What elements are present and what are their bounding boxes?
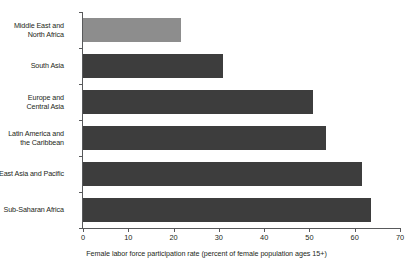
- x-axis-tick-label: 70: [385, 233, 413, 242]
- x-axis-tick-label: 30: [204, 233, 234, 242]
- bar: [83, 18, 181, 42]
- x-axis-tick: [83, 228, 84, 232]
- x-axis-tick: [264, 228, 265, 232]
- category-label: Europe and Central Asia: [0, 93, 64, 112]
- bar-row: Sub-Saharan Africa: [83, 192, 400, 228]
- y-axis-tick: [79, 12, 83, 13]
- plot-area: Middle East and North AfricaSouth AsiaEu…: [83, 12, 400, 228]
- x-axis-tick: [219, 228, 220, 232]
- x-axis-tick-label: 60: [340, 233, 370, 242]
- bar-row: Europe and Central Asia: [83, 84, 400, 120]
- bar: [83, 54, 223, 78]
- category-label: Latin America and the Caribbean: [0, 129, 64, 148]
- y-axis-tick: [79, 84, 83, 85]
- bar-row: Latin America and the Caribbean: [83, 120, 400, 156]
- y-axis-tick: [79, 48, 83, 49]
- x-axis-line: [82, 228, 401, 229]
- category-label: Middle East and North Africa: [0, 21, 64, 40]
- bar-row: East Asia and Pacific: [83, 156, 400, 192]
- bar: [83, 162, 362, 186]
- bar-row: Middle East and North Africa: [83, 12, 400, 48]
- bar: [83, 198, 371, 222]
- y-axis-tick: [79, 156, 83, 157]
- category-label: South Asia: [0, 61, 64, 70]
- x-axis-tick: [174, 228, 175, 232]
- bar-chart: Middle East and North AfricaSouth AsiaEu…: [0, 0, 413, 268]
- x-axis-tick-label: 0: [68, 233, 98, 242]
- x-axis-title: Female labor force participation rate (p…: [0, 249, 413, 258]
- x-axis-tick-label: 40: [249, 233, 279, 242]
- bar: [83, 90, 313, 114]
- bar-row: South Asia: [83, 48, 400, 84]
- bar: [83, 126, 326, 150]
- x-axis-tick: [309, 228, 310, 232]
- x-axis-tick: [355, 228, 356, 232]
- x-axis-tick-label: 20: [159, 233, 189, 242]
- category-label: East Asia and Pacific: [0, 169, 64, 178]
- x-axis-tick-label: 50: [294, 233, 324, 242]
- x-axis-tick: [400, 228, 401, 232]
- y-axis-tick: [79, 120, 83, 121]
- x-axis-tick: [128, 228, 129, 232]
- x-axis-tick-label: 10: [113, 233, 143, 242]
- category-label: Sub-Saharan Africa: [0, 205, 64, 214]
- y-axis-tick: [79, 192, 83, 193]
